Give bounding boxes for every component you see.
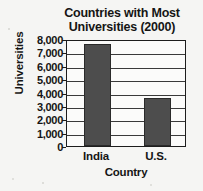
scan-speckle xyxy=(12,178,14,180)
y-axis-tick-label: 4,000 xyxy=(22,88,63,100)
y-axis-tick-label: 2,000 xyxy=(22,114,63,126)
y-axis-tick-label: 1,000 xyxy=(22,128,63,140)
x-axis-title: Country xyxy=(66,166,186,178)
scan-speckle xyxy=(42,182,44,184)
chart-title: Countries with Most Universities (2000) xyxy=(44,6,200,34)
plot-area xyxy=(66,40,186,147)
chart-title-line-2: Universities (2000) xyxy=(44,20,200,34)
scan-speckle xyxy=(8,28,10,30)
y-axis-tick-label: 3,000 xyxy=(22,101,63,113)
scan-speckle xyxy=(150,184,152,186)
y-axis-tick-label: 6,000 xyxy=(22,61,63,73)
chart-title-line-1: Countries with Most xyxy=(44,6,200,20)
y-axis-tick-label: 5,000 xyxy=(22,74,63,86)
y-axis-tick-label: 7,000 xyxy=(22,47,63,59)
x-axis-tick-label: U.S. xyxy=(126,150,186,162)
y-axis-tick-label: 8,000 xyxy=(22,34,63,46)
bar-chart: Countries with Most Universities (2000) … xyxy=(0,0,203,191)
y-axis-tick-label: 0 xyxy=(22,141,63,153)
y-axis-tick-mark xyxy=(62,147,66,148)
bar-u-s xyxy=(144,98,171,146)
bar-india xyxy=(84,44,111,146)
x-axis-tick-label: India xyxy=(66,150,126,162)
y-axis-tick-labels: 8,0007,0006,0005,0004,0003,0002,0001,000… xyxy=(22,40,63,147)
